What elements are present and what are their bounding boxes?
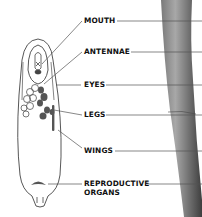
label-antennae: ANTENNAE	[84, 48, 130, 57]
label-eyes: EYES	[84, 81, 105, 90]
eye-cluster	[21, 85, 39, 118]
label-legs: LEGS	[84, 111, 106, 120]
leader-lines-left	[42, 21, 82, 184]
label-mouth: MOUTH	[84, 17, 115, 26]
label-reproductive-organs: REPRODUCTIVE ORGANS	[84, 180, 149, 197]
label-wings: WINGS	[84, 147, 113, 156]
dark-organs	[37, 87, 55, 132]
label-reproductive-line2: ORGANS	[84, 189, 149, 198]
anatomy-diagram: MOUTH ANTENNAE EYES LEGS WINGS REPRODUCT…	[0, 0, 202, 217]
mouth-organ	[35, 53, 41, 75]
reproductive-organ	[31, 182, 46, 186]
plant-stem	[161, 0, 202, 217]
